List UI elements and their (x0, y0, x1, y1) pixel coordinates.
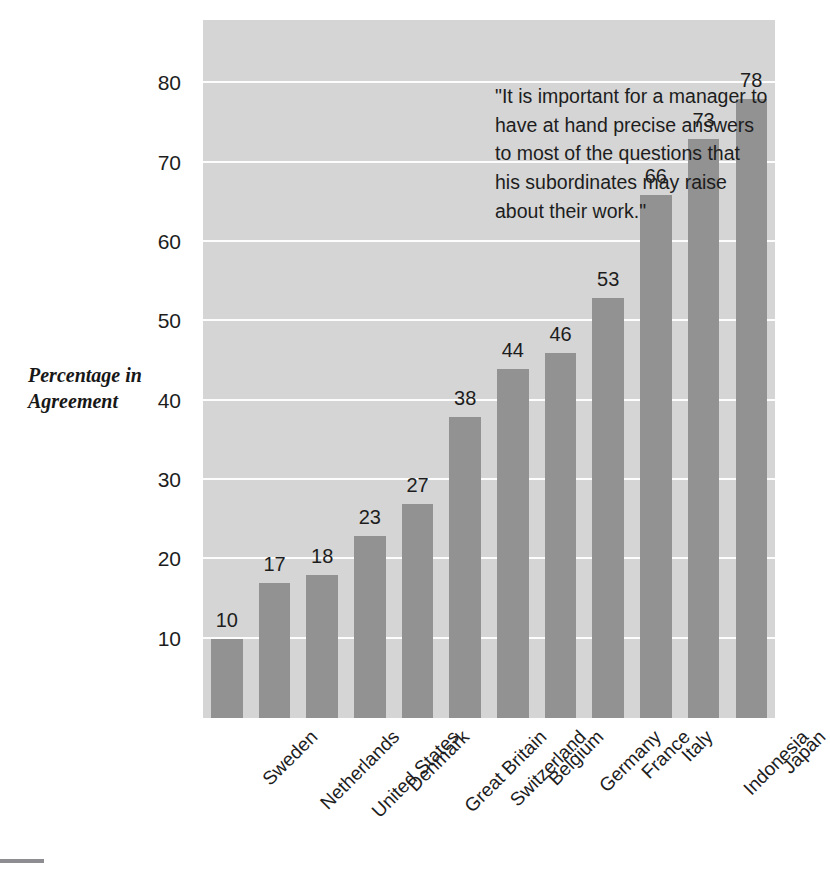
y-tick-label: 40 (158, 389, 181, 413)
x-axis-category-labels: SwedenNetherlandsUnited StatesDenmarkGre… (203, 718, 775, 858)
y-tick-label: 30 (158, 468, 181, 492)
bar-netherlands[interactable]: 17 (259, 583, 290, 718)
y-tick-label: 70 (158, 151, 181, 175)
bar-slot: 10 (203, 20, 251, 718)
plot-area: 101718232738444653667378 "It is importan… (203, 20, 775, 718)
bar-slot: 27 (394, 20, 442, 718)
bar-italy[interactable]: 66 (640, 195, 671, 719)
y-tick-label: 80 (158, 71, 181, 95)
bar-value-label: 17 (263, 553, 285, 576)
bar-belgium[interactable]: 44 (497, 369, 528, 718)
bar-value-label: 27 (406, 474, 428, 497)
y-tick-label: 20 (158, 547, 181, 571)
bar-slot: 17 (251, 20, 299, 718)
bar-value-label: 38 (454, 387, 476, 410)
bar-value-label: 18 (311, 545, 333, 568)
bar-slot: 23 (346, 20, 394, 718)
quote-annotation: "It is important for a manager to have a… (495, 82, 795, 225)
bar-slot: 38 (441, 20, 489, 718)
y-tick-label: 60 (158, 230, 181, 254)
bar-united-states[interactable]: 18 (306, 575, 337, 718)
bar-value-label: 46 (549, 323, 571, 346)
bar-slot: 18 (298, 20, 346, 718)
bar-sweden[interactable]: 10 (211, 639, 242, 718)
bar-germany[interactable]: 46 (545, 353, 576, 718)
bottom-rule-decoration (0, 859, 44, 863)
bar-indonesia[interactable]: 73 (688, 139, 719, 718)
bar-france[interactable]: 53 (592, 298, 623, 718)
y-tick-label: 10 (158, 627, 181, 651)
bar-value-label: 44 (502, 339, 524, 362)
x-axis-label-sweden: Sweden (258, 726, 322, 790)
bar-value-label: 10 (216, 609, 238, 632)
bar-value-label: 23 (359, 506, 381, 529)
bar-great-britain[interactable]: 27 (402, 504, 433, 718)
bar-value-label: 53 (597, 268, 619, 291)
bar-switzerland[interactable]: 38 (449, 417, 480, 718)
bar-denmark[interactable]: 23 (354, 536, 385, 718)
y-axis-tick-labels: 1020304050607080 (0, 20, 195, 718)
y-tick-label: 50 (158, 309, 181, 333)
